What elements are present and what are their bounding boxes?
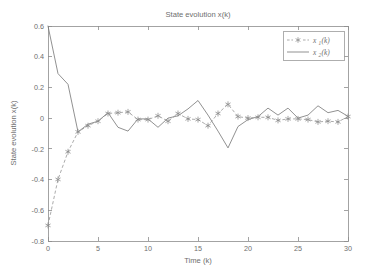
y-tick-label: -0.4	[32, 175, 44, 184]
y-tick-label: -0.2	[32, 145, 44, 154]
chart-legend[interactable]: x 1 (k) x 2 (k)	[283, 31, 344, 60]
legend-label-x2-tail: (k)	[322, 48, 331, 57]
y-axis-tick-labels: 0.6 0.4 0.2 0 -0.2 -0.4 -0.6 -0.8	[32, 22, 44, 246]
series-x1-dashed	[45, 101, 350, 228]
y-tick-label: -0.6	[32, 206, 44, 215]
y-tick-label: 0.6	[34, 22, 44, 31]
x-tick-label: 20	[244, 244, 252, 253]
series-x1-markers	[45, 101, 350, 228]
chart-title: State evolution x(k)	[166, 10, 231, 19]
x-tick-label: 0	[46, 244, 50, 253]
x-axis-title: Time (k)	[184, 256, 212, 265]
x-tick-label: 30	[344, 244, 352, 253]
legend-label-x1-tail: (k)	[322, 36, 331, 45]
x-tick-label: 5	[96, 244, 100, 253]
y-tick-label: -0.8	[32, 237, 44, 246]
x-axis-tick-labels: 0 5 10 15 20 25 30	[46, 244, 352, 253]
legend-label-x2-main: x	[312, 48, 317, 57]
y-tick-label: 0.2	[34, 83, 44, 92]
state-evolution-line-chart: 0.6 0.4 0.2 0 -0.2 -0.4 -0.6 -0.8	[0, 0, 372, 274]
x-tick-label: 15	[194, 244, 202, 253]
legend-label-x1-main: x	[312, 36, 317, 45]
chart-figure: 0.6 0.4 0.2 0 -0.2 -0.4 -0.6 -0.8	[0, 0, 372, 274]
y-tick-label: 0.4	[34, 52, 44, 61]
x-tick-label: 10	[144, 244, 152, 253]
y-tick-label: 0	[40, 114, 44, 123]
y-axis-title: State evolution x(k)	[9, 100, 18, 165]
x-tick-label: 25	[294, 244, 302, 253]
